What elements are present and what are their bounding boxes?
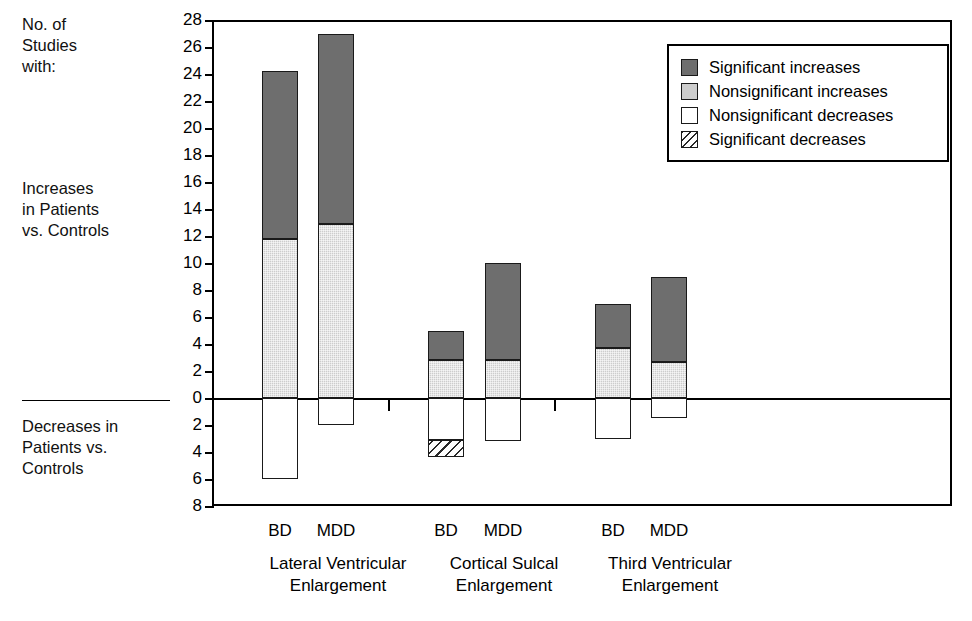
y-axis-tick [205, 74, 214, 76]
y-axis-tick-label: 28 [162, 11, 202, 28]
y-axis-tick-label: 24 [162, 65, 202, 82]
x-axis-group-label: Third Ventricular Enlargement [560, 553, 780, 597]
bar-segment-nonsig-inc[interactable] [651, 362, 687, 398]
legend-label: Significant increases [709, 58, 860, 76]
legend-label: Nonsignificant decreases [709, 106, 893, 124]
bar-segment-sig-inc[interactable] [428, 331, 464, 361]
bar-segment-sig-dec[interactable] [428, 440, 464, 458]
bar-segment-sig-inc[interactable] [485, 263, 521, 360]
legend-swatch-sig-dec-icon [681, 131, 698, 148]
y-axis-tick-label: 12 [162, 227, 202, 244]
y-axis-tick-label: 10 [162, 254, 202, 271]
x-axis-category-label: MDD [634, 521, 704, 541]
legend-item[interactable]: Nonsignificant increases [681, 79, 937, 103]
y-axis-tick-label: 0 [162, 389, 202, 406]
legend-label: Nonsignificant increases [709, 82, 888, 100]
y-axis-tick-label: 4 [162, 335, 202, 352]
bar-segment-nonsig-dec[interactable] [262, 398, 298, 479]
y-axis-tick-label: 2 [162, 362, 202, 379]
y-axis-tick [205, 290, 214, 292]
y-axis-tick [205, 398, 214, 400]
y-axis-tick [205, 47, 214, 49]
bar-segment-sig-inc[interactable] [262, 71, 298, 238]
bar-segment-sig-inc[interactable] [651, 277, 687, 362]
y-axis-tick-label: 4 [162, 443, 202, 460]
axis-annotation-decreases: Decreases in Patients vs. Controls [22, 416, 118, 479]
y-axis-tick [205, 506, 214, 508]
bar-third-ventricular-enlargement-bd[interactable] [595, 20, 631, 506]
y-axis-tick-label: 18 [162, 146, 202, 163]
bar-lateral-ventricular-enlargement-bd[interactable] [262, 20, 298, 506]
y-axis-tick [205, 182, 214, 184]
group-separator-tick [554, 398, 556, 411]
y-axis-tick [205, 371, 214, 373]
y-axis-tick [205, 344, 214, 346]
y-axis-tick [205, 236, 214, 238]
chart-canvas: No. of Studies with: Increases in Patien… [0, 0, 972, 621]
y-axis-tick-label: 16 [162, 173, 202, 190]
legend-swatch-nonsig-inc-icon [681, 83, 698, 100]
bar-segment-nonsig-inc[interactable] [318, 224, 354, 398]
axis-annotation-top: No. of Studies with: [22, 14, 77, 77]
legend-swatch-nonsig-dec-icon [681, 107, 698, 124]
bar-segment-nonsig-dec[interactable] [485, 398, 521, 441]
bar-lateral-ventricular-enlargement-mdd[interactable] [318, 20, 354, 506]
y-axis-tick-label: 20 [162, 119, 202, 136]
bar-segment-nonsig-dec[interactable] [595, 398, 631, 439]
y-axis-tick [205, 425, 214, 427]
x-axis-category-label: MDD [301, 521, 371, 541]
bar-segment-nonsig-dec[interactable] [651, 398, 687, 418]
legend-label: Significant decreases [709, 130, 866, 148]
y-axis-tick-label: 6 [162, 308, 202, 325]
bar-segment-nonsig-inc[interactable] [595, 348, 631, 398]
bar-segment-sig-inc[interactable] [318, 34, 354, 224]
bar-segment-nonsig-inc[interactable] [262, 239, 298, 398]
y-axis-tick-label: 6 [162, 470, 202, 487]
x-axis-category-label: MDD [468, 521, 538, 541]
legend-item[interactable]: Nonsignificant decreases [681, 103, 937, 127]
y-axis-tick-label: 2 [162, 416, 202, 433]
y-axis-tick [205, 20, 214, 22]
bar-segment-sig-inc[interactable] [595, 304, 631, 349]
bar-cortical-sulcal-enlargement-bd[interactable] [428, 20, 464, 506]
bar-segment-nonsig-inc[interactable] [428, 360, 464, 398]
y-axis-tick-label: 8 [162, 497, 202, 514]
y-axis-tick [205, 155, 214, 157]
y-axis-tick [205, 452, 214, 454]
y-axis-tick-label: 22 [162, 92, 202, 109]
legend: Significant increasesNonsignificant incr… [667, 44, 949, 162]
group-separator-tick [388, 398, 390, 411]
y-axis-tick [205, 317, 214, 319]
legend-item[interactable]: Significant decreases [681, 127, 937, 151]
y-axis-tick [205, 263, 214, 265]
y-axis-tick-label: 8 [162, 281, 202, 298]
legend-item[interactable]: Significant increases [681, 55, 937, 79]
bar-segment-nonsig-dec[interactable] [318, 398, 354, 425]
axis-annotation-increases: Increases in Patients vs. Controls [22, 178, 109, 241]
y-axis-tick-label: 26 [162, 38, 202, 55]
bar-segment-nonsig-inc[interactable] [485, 360, 521, 398]
y-axis-tick [205, 479, 214, 481]
bar-segment-nonsig-dec[interactable] [428, 398, 464, 440]
bar-cortical-sulcal-enlargement-mdd[interactable] [485, 20, 521, 506]
y-axis-tick-label: 14 [162, 200, 202, 217]
axis-annotation-divider [22, 400, 170, 401]
legend-swatch-sig-inc-icon [681, 59, 698, 76]
y-axis-tick [205, 101, 214, 103]
y-axis-tick [205, 209, 214, 211]
y-axis-tick [205, 128, 214, 130]
